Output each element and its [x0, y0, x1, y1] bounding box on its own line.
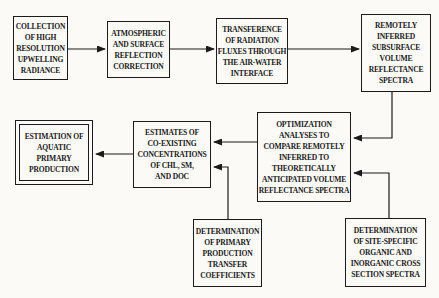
- node-atmospheric-correction: ATMOSPHERIC AND SURFACE REFLECTION CORRE…: [107, 21, 170, 78]
- node-coexisting-concentrations-label: ESTIMATES OF CO-EXISTING CONCENTRATIONS …: [134, 127, 210, 182]
- arrow-spectra-to-optimization: [354, 92, 392, 138]
- node-volume-reflectance-spectra-label: REMOTELY INFERRED SUBSURFACE VOLUME REFL…: [362, 20, 430, 86]
- node-volume-reflectance-spectra: REMOTELY INFERRED SUBSURFACE VOLUME REFL…: [361, 14, 431, 92]
- arrow-cross-sections-to-optimization: [354, 173, 389, 218]
- node-optimization-analyses: OPTIMIZATION ANALYSES TO COMPARE REMOTEL…: [257, 112, 351, 202]
- arrow-coefficients-to-estimates: [214, 167, 228, 219]
- node-atmospheric-correction-label: ATMOSPHERIC AND SURFACE REFLECTION CORRE…: [108, 28, 169, 72]
- node-aquatic-primary-production-label: ESTIMATION OF AQUATIC PRIMARY PRODUCTION: [16, 131, 92, 175]
- node-transfer-coefficients: DETERMINATION OF PRIMARY PRODUCTION TRAN…: [193, 219, 262, 287]
- node-optimization-analyses-label: OPTIMIZATION ANALYSES TO COMPARE REMOTEL…: [258, 119, 350, 196]
- node-radiation-transference: TRANSFERENCE OF RADIATION FLUXES THROUGH…: [216, 18, 288, 84]
- node-upwelling-radiance-label: COLLECTION OF HIGH RESOLUTION UPWELLING …: [14, 21, 67, 76]
- node-transfer-coefficients-label: DETERMINATION OF PRIMARY PRODUCTION TRAN…: [194, 226, 261, 281]
- node-coexisting-concentrations: ESTIMATES OF CO-EXISTING CONCENTRATIONS …: [133, 121, 211, 188]
- flowchart-figure: COLLECTION OF HIGH RESOLUTION UPWELLING …: [0, 0, 439, 298]
- node-aquatic-primary-production: ESTIMATION OF AQUATIC PRIMARY PRODUCTION: [15, 120, 93, 185]
- node-cross-section-spectra: DETERMINATION OF SITE-SPECIFIC ORGANIC A…: [345, 218, 426, 287]
- node-cross-section-spectra-label: DETERMINATION OF SITE-SPECIFIC ORGANIC A…: [346, 225, 425, 280]
- node-upwelling-radiance: COLLECTION OF HIGH RESOLUTION UPWELLING …: [13, 16, 68, 80]
- node-radiation-transference-label: TRANSFERENCE OF RADIATION FLUXES THROUGH…: [217, 24, 287, 79]
